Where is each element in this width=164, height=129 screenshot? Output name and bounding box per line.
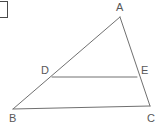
- triangle-diagram-canvas: [0, 0, 164, 129]
- segment-ac: [120, 17, 150, 106]
- vertex-label-b: B: [9, 113, 16, 124]
- geometry-figure: A B C D E: [0, 0, 164, 129]
- vertex-label-d: D: [41, 65, 49, 76]
- vertex-label-c: C: [147, 113, 155, 124]
- vertex-label-a: A: [116, 2, 123, 13]
- segment-ab: [13, 17, 120, 109]
- segment-bc: [13, 106, 150, 109]
- vertex-label-e: E: [141, 65, 148, 76]
